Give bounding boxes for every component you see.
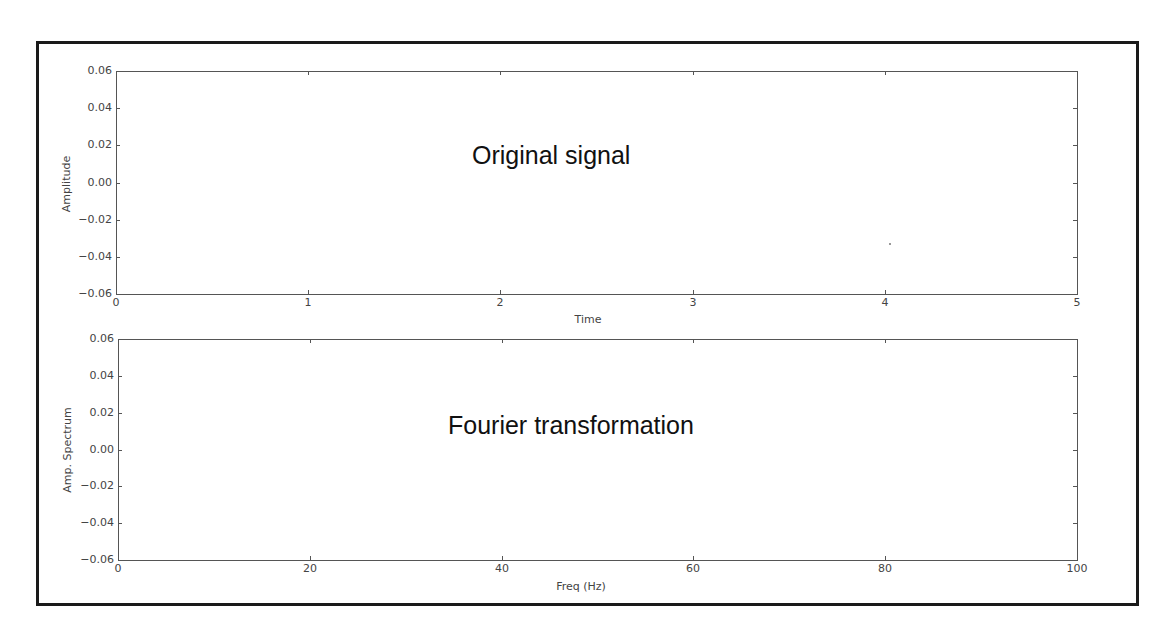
y-tick-mark-right — [1073, 220, 1077, 221]
x-tick-mark-top — [1077, 339, 1078, 343]
signal-annotation: Original signal — [472, 141, 630, 169]
x-tick-label: 40 — [482, 563, 522, 575]
spectrum-xlabel: Freq (Hz) — [521, 581, 641, 593]
y-tick-mark — [116, 145, 120, 146]
x-tick-mark — [308, 290, 309, 294]
x-tick-mark — [1077, 290, 1078, 294]
y-tick-mark-right — [1073, 560, 1077, 561]
y-tick-mark-right — [1073, 523, 1077, 524]
y-tick-mark-right — [1073, 450, 1077, 451]
x-tick-mark-top — [308, 71, 309, 75]
x-tick-label: 20 — [290, 563, 330, 575]
x-tick-label: 60 — [673, 563, 713, 575]
y-tick-mark-right — [1073, 183, 1077, 184]
x-tick-mark — [693, 556, 694, 560]
y-tick-label: −0.02 — [64, 480, 114, 492]
y-tick-label: −0.04 — [64, 517, 114, 529]
x-tick-mark-top — [693, 339, 694, 343]
x-tick-mark — [693, 290, 694, 294]
y-tick-label: 0.04 — [64, 370, 114, 382]
y-tick-label: −0.04 — [62, 251, 112, 263]
y-tick-mark — [118, 560, 122, 561]
y-tick-mark — [116, 294, 120, 295]
x-tick-label: 5 — [1057, 297, 1097, 309]
y-tick-label: 0.00 — [64, 444, 114, 456]
x-tick-mark-top — [118, 339, 119, 343]
y-tick-label: 0.06 — [62, 65, 112, 77]
x-tick-label: 0 — [98, 563, 138, 575]
y-tick-label: 0.02 — [64, 407, 114, 419]
signal-data-point — [889, 243, 891, 245]
y-tick-mark — [116, 220, 120, 221]
x-tick-mark — [885, 290, 886, 294]
x-tick-mark-top — [310, 339, 311, 343]
signal-xlabel: Time — [528, 314, 648, 326]
x-tick-mark — [310, 556, 311, 560]
y-tick-mark — [116, 108, 120, 109]
y-tick-mark — [118, 450, 122, 451]
y-tick-mark-right — [1073, 257, 1077, 258]
x-tick-label: 4 — [865, 297, 905, 309]
y-tick-mark-right — [1073, 108, 1077, 109]
spectrum-annotation: Fourier transformation — [448, 411, 694, 439]
signal-axes — [116, 71, 1078, 295]
y-tick-mark-right — [1073, 145, 1077, 146]
x-tick-mark — [885, 556, 886, 560]
x-tick-mark-top — [1077, 71, 1078, 75]
y-tick-mark — [118, 486, 122, 487]
y-tick-label: 0.00 — [62, 177, 112, 189]
x-tick-label: 2 — [480, 297, 520, 309]
y-tick-label: 0.06 — [64, 333, 114, 345]
x-tick-label: 1 — [288, 297, 328, 309]
x-tick-label: 3 — [673, 297, 713, 309]
x-tick-label: 80 — [865, 563, 905, 575]
x-tick-label: 100 — [1057, 563, 1097, 575]
x-tick-mark — [116, 290, 117, 294]
y-tick-label: 0.02 — [62, 139, 112, 151]
y-tick-mark — [116, 183, 120, 184]
x-tick-label: 0 — [96, 297, 136, 309]
x-tick-mark — [118, 556, 119, 560]
y-tick-mark-right — [1073, 294, 1077, 295]
y-tick-mark — [118, 413, 122, 414]
y-tick-mark — [118, 376, 122, 377]
x-tick-mark-top — [885, 71, 886, 75]
y-tick-mark-right — [1073, 413, 1077, 414]
x-tick-mark-top — [116, 71, 117, 75]
y-tick-label: 0.04 — [62, 102, 112, 114]
x-tick-mark-top — [885, 339, 886, 343]
y-tick-mark — [118, 523, 122, 524]
x-tick-mark-top — [502, 339, 503, 343]
x-tick-mark — [500, 290, 501, 294]
y-tick-mark-right — [1073, 486, 1077, 487]
x-tick-mark-top — [500, 71, 501, 75]
spectrum-axes — [118, 339, 1078, 561]
x-tick-mark — [1077, 556, 1078, 560]
y-tick-mark-right — [1073, 376, 1077, 377]
x-tick-mark-top — [693, 71, 694, 75]
y-tick-mark — [116, 257, 120, 258]
y-tick-label: −0.02 — [62, 214, 112, 226]
x-tick-mark — [502, 556, 503, 560]
